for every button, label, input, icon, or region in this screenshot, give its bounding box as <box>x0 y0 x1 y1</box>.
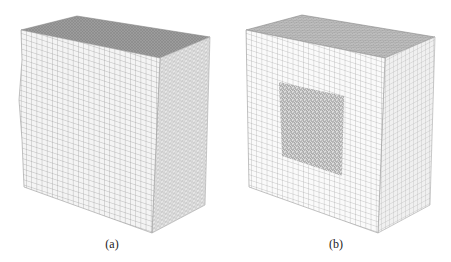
right-face <box>152 37 210 233</box>
panel-caption: (b) <box>316 237 356 252</box>
meshed-cube-b <box>225 0 451 235</box>
panel-caption: (a) <box>92 237 132 252</box>
meshed-cube-a <box>0 0 225 235</box>
figure-panel-a: (a) <box>0 0 225 262</box>
front-face <box>19 30 160 233</box>
right-face <box>378 37 435 233</box>
figure-panel-b: (b) <box>225 0 451 262</box>
